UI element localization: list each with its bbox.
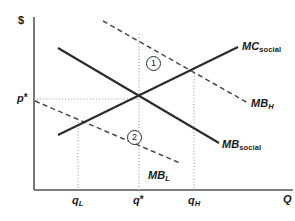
y-tick-label-p-star: p* [17,93,28,104]
x-tick-label-q-low: qL [72,195,84,206]
curve-label-mc-social: MCsocial [242,41,281,52]
curve-label-mb-high: MBH [251,98,274,109]
x-tick-label-q-high: qH [188,195,200,206]
economics-diagram-figure: $ Q p* qL q* qH MCsocial MBH MBsocial MB… [0,0,295,221]
diagram-canvas [0,0,295,221]
callout-2-label: 2 [132,132,137,142]
callout-marker-1: 1 [146,56,161,71]
callout-marker-2: 2 [127,130,142,145]
callout-1-label: 1 [151,58,156,68]
curve-label-mb-social: MBsocial [222,139,261,150]
curve-label-mb-low: MBL [148,170,170,181]
curve-mb-high [103,21,248,103]
x-tick-label-q-star: q* [133,195,144,206]
x-axis-label: Q [283,194,292,205]
y-axis-label: $ [18,15,24,26]
